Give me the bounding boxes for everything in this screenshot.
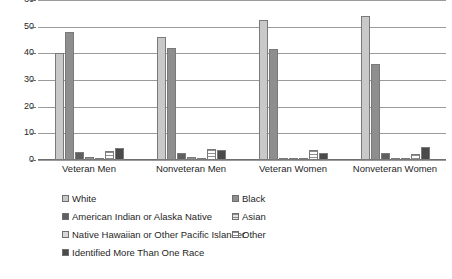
bar[interactable] bbox=[115, 148, 124, 160]
bar-group-inner bbox=[157, 0, 226, 160]
y-axis-tick-labels: 0102030405060 bbox=[0, 0, 34, 160]
legend-row: American Indian or Alaska NativeAsian bbox=[0, 211, 452, 227]
bar[interactable] bbox=[289, 158, 298, 160]
bar[interactable] bbox=[177, 153, 186, 160]
bar[interactable] bbox=[167, 48, 176, 160]
bar[interactable] bbox=[207, 149, 216, 160]
bar[interactable] bbox=[75, 152, 84, 160]
legend-row: Identified More Than One Race bbox=[0, 247, 452, 263]
bar[interactable] bbox=[401, 158, 410, 160]
x-category-label: Nonveteran Women bbox=[344, 163, 446, 174]
legend-item[interactable]: Identified More Than One Race bbox=[62, 247, 204, 258]
bar-group-inner bbox=[361, 0, 430, 160]
legend-label: Native Hawaiian or Other Pacific Islande… bbox=[72, 229, 245, 240]
bar[interactable] bbox=[381, 153, 390, 160]
bar[interactable] bbox=[197, 158, 206, 160]
grouped-bar-chart: 0102030405060 Veteran MenNonveteran MenV… bbox=[0, 0, 452, 279]
legend-item[interactable]: Other bbox=[232, 229, 266, 240]
legend-swatch-icon bbox=[62, 231, 69, 238]
bar-group bbox=[242, 0, 344, 160]
bar[interactable] bbox=[105, 151, 114, 160]
legend-swatch-icon bbox=[232, 231, 239, 238]
bar[interactable] bbox=[361, 16, 370, 160]
legend-row: Native Hawaiian or Other Pacific Islande… bbox=[0, 229, 452, 245]
legend-row: WhiteBlack bbox=[0, 193, 452, 209]
gridline-0 bbox=[38, 160, 446, 161]
legend-item[interactable]: Asian bbox=[232, 211, 266, 222]
legend-item[interactable]: American Indian or Alaska Native bbox=[62, 211, 212, 222]
y-tick-mark-0 bbox=[31, 160, 36, 161]
bar[interactable] bbox=[391, 158, 400, 160]
chart-legend: WhiteBlackAmerican Indian or Alaska Nati… bbox=[0, 193, 452, 279]
bar[interactable] bbox=[187, 157, 196, 160]
legend-swatch-icon bbox=[62, 195, 69, 202]
x-axis-category-labels: Veteran MenNonveteran MenVeteran WomenNo… bbox=[38, 163, 446, 174]
bar[interactable] bbox=[421, 147, 430, 160]
bar-group bbox=[344, 0, 446, 160]
y-tick-mark-60 bbox=[31, 0, 36, 1]
legend-label: Identified More Than One Race bbox=[72, 247, 204, 258]
legend-label: White bbox=[72, 193, 96, 204]
legend-item[interactable]: Black bbox=[232, 193, 265, 204]
bar[interactable] bbox=[411, 154, 420, 160]
legend-label: Asian bbox=[242, 211, 266, 222]
x-category-label: Veteran Men bbox=[38, 163, 140, 174]
bar[interactable] bbox=[371, 64, 380, 160]
bar[interactable] bbox=[309, 150, 318, 160]
bar[interactable] bbox=[217, 150, 226, 160]
legend-swatch-icon bbox=[232, 213, 239, 220]
bar-group bbox=[140, 0, 242, 160]
legend-swatch-icon bbox=[62, 249, 69, 256]
bar[interactable] bbox=[269, 49, 278, 160]
bar-groups bbox=[38, 0, 446, 160]
legend-label: American Indian or Alaska Native bbox=[72, 211, 212, 222]
legend-label: Black bbox=[242, 193, 265, 204]
x-category-label: Nonveteran Men bbox=[140, 163, 242, 174]
x-category-label: Veteran Women bbox=[242, 163, 344, 174]
bar-group-inner bbox=[55, 0, 124, 160]
bar[interactable] bbox=[85, 157, 94, 160]
y-tick-mark-40 bbox=[31, 53, 36, 54]
bar[interactable] bbox=[157, 37, 166, 160]
bar[interactable] bbox=[95, 158, 104, 160]
y-tick-mark-10 bbox=[31, 133, 36, 134]
y-tick-mark-50 bbox=[31, 27, 36, 28]
bar[interactable] bbox=[259, 20, 268, 160]
bar-group bbox=[38, 0, 140, 160]
bar-group-inner bbox=[259, 0, 328, 160]
legend-label: Other bbox=[242, 229, 266, 240]
legend-swatch-icon bbox=[62, 213, 69, 220]
bar[interactable] bbox=[319, 153, 328, 160]
legend-swatch-icon bbox=[232, 195, 239, 202]
bar[interactable] bbox=[65, 32, 74, 160]
legend-item[interactable]: White bbox=[62, 193, 96, 204]
bar[interactable] bbox=[299, 158, 308, 160]
bar[interactable] bbox=[279, 158, 288, 160]
legend-item[interactable]: Native Hawaiian or Other Pacific Islande… bbox=[62, 229, 245, 240]
y-tick-mark-20 bbox=[31, 107, 36, 108]
bar[interactable] bbox=[55, 53, 64, 160]
plot-area: 0102030405060 Veteran MenNonveteran MenV… bbox=[0, 0, 452, 190]
y-tick-mark-30 bbox=[31, 80, 36, 81]
